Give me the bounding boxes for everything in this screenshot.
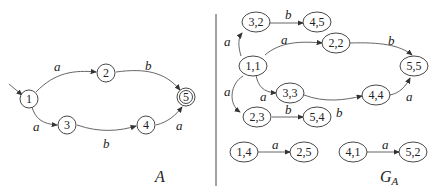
svg-text:5,4: 5,4: [310, 110, 325, 124]
state-5-final: 5: [177, 88, 195, 106]
edge-label: b: [285, 7, 292, 22]
node-2-5: 2,5: [290, 142, 318, 162]
svg-text:1: 1: [26, 92, 32, 106]
svg-text:4: 4: [143, 118, 149, 132]
edge-label: b: [103, 136, 110, 151]
edge-1-2: [36, 71, 96, 92]
node-5-4: 5,4: [303, 107, 331, 127]
edge-11-32: [239, 33, 242, 56]
svg-text:4,4: 4,4: [369, 88, 384, 102]
node-5-5: 5,5: [400, 56, 428, 76]
svg-text:1,1: 1,1: [246, 59, 261, 73]
node-2-2: 2,2: [322, 33, 350, 53]
node-5-2: 5,2: [399, 142, 427, 162]
edge-label: a: [33, 119, 40, 134]
svg-text:3,2: 3,2: [249, 15, 264, 29]
svg-text:5,2: 5,2: [406, 145, 421, 159]
node-3-2: 3,2: [242, 12, 270, 32]
node-4-4: 4,4: [362, 85, 390, 105]
edge-11-22: [265, 42, 322, 55]
state-3: 3: [58, 116, 76, 134]
svg-text:5: 5: [183, 90, 189, 104]
svg-text:3,3: 3,3: [283, 86, 298, 100]
graph-ga: b a a b a b a a b a a 3,2 4,5 1,1 2,2 5,…: [224, 7, 428, 187]
edge-label: a: [176, 118, 183, 133]
svg-text:1,4: 1,4: [237, 145, 252, 159]
edge-3-4: [77, 125, 136, 130]
edge-label: a: [406, 89, 413, 104]
edge-11-23: [232, 76, 243, 112]
edge-label: b: [145, 58, 152, 73]
edge-label: a: [272, 137, 279, 152]
edge-label: a: [224, 34, 231, 49]
edge-label: a: [382, 137, 389, 152]
edge-22-55: [350, 43, 412, 55]
edge-label: a: [54, 59, 61, 74]
svg-text:4,1: 4,1: [346, 145, 361, 159]
node-4-1: 4,1: [339, 142, 367, 162]
svg-text:2,2: 2,2: [329, 36, 344, 50]
edge-label: b: [285, 102, 292, 117]
diagram-canvas: a b a b a 1 2 3 4 5 A: [0, 0, 440, 194]
edge-label: a: [281, 32, 288, 47]
node-1-1: 1,1: [239, 56, 267, 76]
caption-ga: GA: [380, 168, 399, 187]
edge-33-44: [304, 95, 362, 100]
caption-a: A: [154, 168, 165, 185]
svg-text:5,5: 5,5: [407, 59, 422, 73]
node-1-4: 1,4: [230, 142, 258, 162]
node-3-3: 3,3: [276, 83, 304, 103]
edge-label: b: [336, 105, 343, 120]
node-2-3: 2,3: [243, 107, 271, 127]
edge-label: b: [388, 33, 395, 48]
state-2: 2: [97, 64, 115, 82]
state-4: 4: [137, 116, 155, 134]
automaton-a: a b a b a 1 2 3 4 5 A: [9, 58, 195, 185]
initial-arrow: [9, 84, 22, 95]
svg-text:3: 3: [64, 118, 70, 132]
svg-text:2: 2: [103, 66, 109, 80]
edge-label: a: [260, 89, 267, 104]
node-4-5: 4,5: [303, 12, 331, 32]
svg-text:2,3: 2,3: [250, 110, 265, 124]
svg-text:2,5: 2,5: [297, 145, 312, 159]
edge-label: a: [224, 84, 231, 99]
edge-2-5: [116, 71, 180, 90]
state-1: 1: [20, 90, 38, 108]
svg-text:4,5: 4,5: [310, 15, 325, 29]
